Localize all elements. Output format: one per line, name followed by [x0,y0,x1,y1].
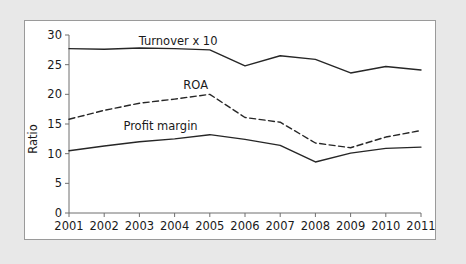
y-tick-label: 25 [47,58,62,72]
x-tick-label: 2008 [301,219,330,233]
series-label: Profit margin [123,119,197,133]
x-axis-tick-labels: 2001200220032004200520062007200820092010… [54,219,435,233]
series-label: ROA [183,78,208,92]
series-line [69,48,421,73]
series-lines [69,48,421,162]
axis-tick-marks [65,35,421,217]
x-tick-label: 2011 [406,219,435,233]
x-tick-label: 2001 [54,219,83,233]
axis-lines [69,35,421,213]
x-tick-label: 2006 [230,219,259,233]
x-tick-label: 2002 [90,219,119,233]
y-tick-label: 20 [47,87,62,101]
x-tick-label: 2003 [125,219,154,233]
y-tick-label: 10 [47,147,62,161]
chart-panel: Ratio 051015202530 200120022003200420052… [24,20,436,240]
y-axis-title: Ratio [26,124,40,154]
y-tick-label: 5 [55,176,62,190]
series-label: Turnover x 10 [138,34,218,48]
y-tick-label: 0 [55,206,62,220]
y-axis-tick-labels: 051015202530 [47,28,62,220]
y-axis-title-group: Ratio [26,124,40,154]
line-chart: Ratio 051015202530 200120022003200420052… [25,21,437,241]
series-line [69,135,421,162]
y-tick-label: 15 [47,117,62,131]
x-tick-label: 2007 [266,219,295,233]
x-tick-label: 2009 [336,219,365,233]
x-tick-label: 2010 [371,219,400,233]
y-tick-label: 30 [47,28,62,42]
x-tick-label: 2004 [160,219,189,233]
x-tick-label: 2005 [195,219,224,233]
